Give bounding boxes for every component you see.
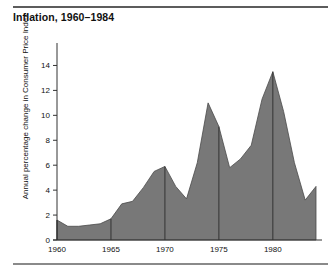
y-tick-label: 10 bbox=[41, 111, 50, 120]
x-tick-label: 1960 bbox=[48, 245, 66, 254]
area-series bbox=[57, 72, 316, 240]
figure-container: Inflation, 1960–1984 Annual percentage c… bbox=[0, 0, 335, 275]
x-tick-label: 1970 bbox=[156, 245, 174, 254]
y-tick-label: 8 bbox=[46, 136, 51, 145]
x-tick-label: 1975 bbox=[210, 245, 228, 254]
y-tick-label: 4 bbox=[46, 186, 51, 195]
y-tick-label: 2 bbox=[46, 211, 51, 220]
top-rule bbox=[13, 6, 328, 8]
inflation-area-chart: 0246810121419601965197019751980 bbox=[0, 30, 335, 258]
x-tick-label: 1965 bbox=[102, 245, 120, 254]
bottom-rule bbox=[13, 263, 328, 265]
plot-area: Annual percentage change in Consumer Pri… bbox=[0, 30, 335, 258]
y-tick-label: 6 bbox=[46, 161, 51, 170]
y-tick-label: 12 bbox=[41, 86, 50, 95]
y-tick-label: 0 bbox=[46, 236, 51, 245]
x-tick-label: 1980 bbox=[264, 245, 282, 254]
y-tick-label: 14 bbox=[41, 61, 50, 70]
